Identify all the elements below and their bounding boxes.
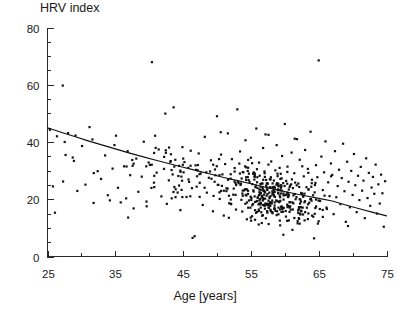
scatter-point	[170, 153, 172, 155]
scatter-point	[252, 173, 254, 175]
scatter-point	[303, 193, 305, 195]
scatter-point	[206, 192, 208, 194]
x-tick-labels: 253545556575	[42, 268, 394, 280]
scatter-point	[129, 174, 131, 176]
scatter-point	[299, 202, 301, 204]
scatter-point	[372, 176, 374, 178]
scatter-point	[93, 172, 95, 174]
scatter-point	[250, 199, 252, 201]
scatter-point	[148, 161, 150, 163]
scatter-point	[299, 213, 301, 215]
scatter-point	[370, 186, 372, 188]
scatter-point	[291, 229, 293, 231]
y-tick-label: 40	[27, 137, 40, 149]
scatter-point	[175, 188, 177, 190]
scatter-point	[314, 213, 316, 215]
scatter-point	[281, 155, 283, 157]
scatter-point	[244, 203, 246, 205]
scatter-point	[277, 192, 279, 194]
scatter-point	[165, 149, 167, 151]
scatter-point	[234, 170, 236, 172]
scatter-point	[264, 198, 266, 200]
scatter-point	[182, 171, 184, 173]
scatter-point	[230, 198, 232, 200]
scatter-point	[247, 170, 249, 172]
scatter-point	[358, 199, 360, 201]
scatter-point	[356, 211, 358, 213]
scatter-point	[384, 180, 386, 182]
scatter-point	[286, 206, 288, 208]
scatter-point	[88, 126, 90, 128]
scatter-point	[366, 197, 368, 199]
scatter-point	[180, 176, 182, 178]
scatter-point	[294, 182, 296, 184]
scatter-point	[260, 189, 262, 191]
scatter-point	[198, 173, 200, 175]
scatter-point	[273, 179, 275, 181]
scatter-point	[198, 152, 200, 154]
scatter-point	[299, 198, 301, 200]
scatter-point	[191, 237, 193, 239]
scatter-point	[293, 172, 295, 174]
scatter-point	[322, 189, 324, 191]
scatter-point	[288, 211, 290, 213]
scatter-point	[244, 165, 246, 167]
scatter-point	[247, 167, 249, 169]
scatter-point	[292, 208, 294, 210]
scatter-point	[375, 164, 377, 166]
scatter-point	[303, 219, 305, 221]
scatter-point	[288, 194, 290, 196]
scatter-point	[254, 195, 256, 197]
scatter-point	[307, 172, 309, 174]
scatter-point	[244, 188, 246, 190]
scatter-point	[300, 210, 302, 212]
scatter-point	[76, 190, 78, 192]
scatter-point	[328, 195, 330, 197]
scatter-point	[305, 186, 307, 188]
scatter-point	[250, 197, 252, 199]
scatter-point	[216, 165, 218, 167]
scatter-point	[282, 182, 284, 184]
scatter-point	[282, 234, 284, 236]
scatter-point	[279, 224, 281, 226]
scatter-point	[300, 201, 302, 203]
scatter-point	[325, 206, 327, 208]
scatter-point	[199, 182, 201, 184]
scatter-point	[261, 183, 263, 185]
scatter-point	[227, 187, 229, 189]
scatter-point	[262, 188, 264, 190]
scatter-point	[303, 201, 305, 203]
scatter-point	[268, 203, 270, 205]
y-tick-labels: 020406080	[27, 23, 40, 264]
scatter-point	[64, 154, 66, 156]
scatter-point	[311, 179, 313, 181]
scatter-point	[337, 185, 339, 187]
plot-title: HRV index	[40, 1, 100, 15]
scatter-point	[277, 213, 279, 215]
scatter-point	[177, 191, 179, 193]
scatter-point	[172, 191, 174, 193]
scatter-point	[64, 141, 66, 143]
y-tick-label: 20	[27, 194, 40, 206]
scatter-point	[265, 179, 267, 181]
scatter-point	[306, 207, 308, 209]
scatter-point	[318, 220, 320, 222]
scatter-point	[288, 188, 290, 190]
scatter-point	[338, 169, 340, 171]
scatter-point	[261, 222, 263, 224]
scatter-point	[212, 210, 214, 212]
scatter-point	[286, 183, 288, 185]
scatter-point	[280, 192, 282, 194]
x-axis: 253545556575	[42, 251, 394, 280]
scatter-point	[365, 157, 367, 159]
scatter-point	[244, 139, 246, 141]
scatter-point	[271, 199, 273, 201]
scatter-point	[290, 209, 292, 211]
scatter-point	[354, 184, 356, 186]
scatter-point	[315, 164, 317, 166]
scatter-point	[268, 207, 270, 209]
scatter-point	[330, 175, 332, 177]
scatter-point	[168, 146, 170, 148]
x-tick-label: 25	[42, 268, 55, 280]
scatter-point	[262, 179, 264, 181]
